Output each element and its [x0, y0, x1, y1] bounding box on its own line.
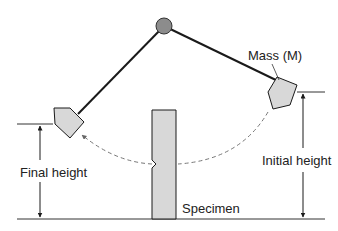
specimen	[152, 110, 176, 219]
mass-initial-position	[268, 77, 297, 109]
swing-path	[178, 112, 268, 164]
impact-test-diagram: Mass (M) Final height Initial height Spe…	[0, 0, 338, 231]
pivot-point	[156, 18, 172, 34]
specimen-label: Specimen	[182, 201, 240, 216]
diagram-svg: Mass (M) Final height Initial height Spe…	[0, 0, 338, 231]
final-height-label: Final height	[20, 165, 88, 180]
swing-path-return	[82, 135, 152, 164]
pendulum-arm-final	[78, 26, 164, 114]
initial-height-label: Initial height	[262, 153, 332, 168]
mass-label: Mass (M)	[248, 48, 302, 63]
